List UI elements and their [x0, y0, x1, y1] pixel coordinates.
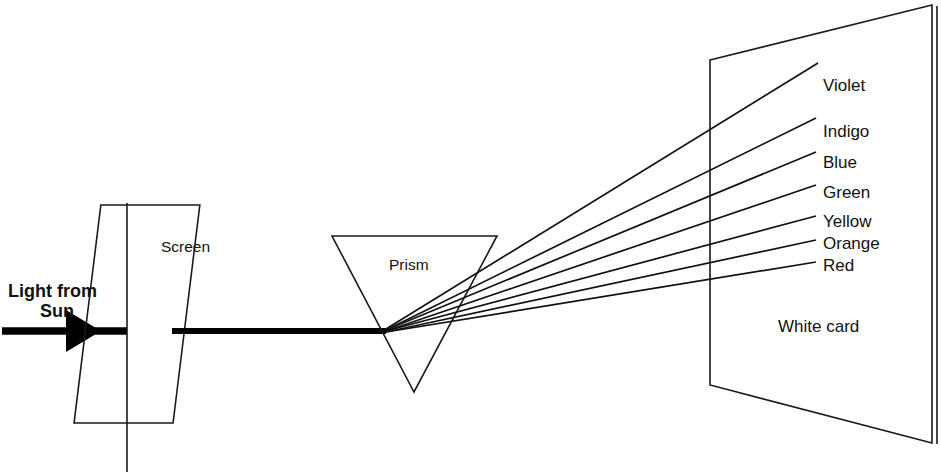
spectrum-label-violet: Violet — [823, 76, 865, 95]
ray-red — [386, 262, 816, 332]
spectrum-label-yellow: Yellow — [823, 212, 872, 231]
diagram-canvas: Light from Sun Screen Prism Violet Indig… — [0, 0, 941, 474]
screen-label: Screen — [161, 238, 210, 255]
spectrum-label-red: Red — [823, 256, 854, 275]
light-source-label-line1: Light from — [8, 281, 97, 301]
ray-indigo — [386, 118, 816, 330]
white-card-panel — [710, 5, 932, 443]
spectrum-label-indigo: Indigo — [823, 122, 869, 141]
light-source-label-line2: Sun — [40, 301, 74, 321]
ray-green — [386, 185, 816, 331]
white-card-label: White card — [778, 317, 859, 336]
spectrum-rays-group — [386, 63, 818, 332]
spectrum-label-blue: Blue — [823, 153, 857, 172]
ray-yellow — [386, 216, 816, 331]
ray-violet — [386, 63, 818, 329]
spectrum-label-orange: Orange — [823, 234, 880, 253]
ray-orange — [386, 240, 816, 332]
prism-label: Prism — [389, 256, 429, 273]
spectrum-label-green: Green — [823, 183, 870, 202]
prism-dispersion-svg: Light from Sun Screen Prism Violet Indig… — [0, 0, 941, 474]
ray-blue — [386, 152, 816, 330]
